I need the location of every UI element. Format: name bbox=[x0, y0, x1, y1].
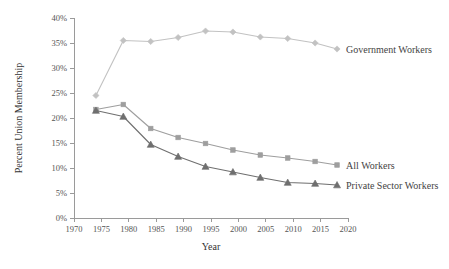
data-point-marker bbox=[148, 126, 153, 131]
data-point-marker bbox=[231, 148, 236, 153]
y-tick-label: 0% bbox=[56, 213, 67, 223]
data-point-marker bbox=[203, 141, 208, 146]
x-tick-label: 1980 bbox=[120, 224, 137, 234]
data-point-marker bbox=[175, 153, 182, 159]
data-point-marker bbox=[230, 29, 236, 35]
data-point-marker bbox=[257, 34, 263, 40]
data-point-marker bbox=[285, 156, 290, 161]
series-label-private-sector-workers: Private Sector Workers bbox=[346, 180, 438, 191]
x-tick-label: 1985 bbox=[148, 224, 165, 234]
data-point-marker bbox=[335, 163, 340, 168]
y-tick-label: 5% bbox=[56, 188, 67, 198]
line-chart: 0%5%10%15%20%25%30%35%40%197019751980198… bbox=[0, 0, 449, 269]
series-line bbox=[96, 111, 337, 186]
series-all-workers bbox=[94, 102, 340, 167]
x-tick-label: 2010 bbox=[285, 224, 302, 234]
data-point-marker bbox=[175, 34, 181, 40]
x-tick-label: 2020 bbox=[340, 224, 357, 234]
data-point-marker bbox=[121, 102, 126, 107]
y-tick-label: 40% bbox=[51, 13, 67, 23]
data-point-marker bbox=[312, 40, 318, 46]
union-membership-chart-page: 0%5%10%15%20%25%30%35%40%197019751980198… bbox=[0, 0, 449, 269]
x-tick-label: 2015 bbox=[312, 224, 329, 234]
y-tick-label: 15% bbox=[51, 138, 67, 148]
y-tick-label: 25% bbox=[51, 88, 67, 98]
y-axis-title: Percent Union Membership bbox=[13, 63, 24, 174]
y-tick-label: 20% bbox=[51, 113, 67, 123]
x-axis-title: Year bbox=[202, 241, 221, 252]
x-tick-label: 1995 bbox=[203, 224, 220, 234]
y-tick-label: 10% bbox=[51, 163, 67, 173]
y-tick-label: 35% bbox=[51, 38, 67, 48]
x-tick-label: 1970 bbox=[66, 224, 83, 234]
x-tick-label: 1975 bbox=[93, 224, 110, 234]
series-line bbox=[96, 105, 337, 166]
data-point-marker bbox=[148, 38, 154, 44]
plot-area: 0%5%10%15%20%25%30%35%40%197019751980198… bbox=[13, 13, 438, 252]
data-point-marker bbox=[202, 28, 208, 34]
data-point-marker bbox=[313, 159, 318, 164]
x-tick-label: 2000 bbox=[230, 224, 247, 234]
data-point-marker bbox=[285, 35, 291, 41]
data-point-marker bbox=[93, 92, 99, 98]
x-tick-label: 2005 bbox=[257, 224, 274, 234]
series-line bbox=[96, 31, 337, 96]
data-point-marker bbox=[258, 153, 263, 158]
series-label-all-workers: All Workers bbox=[346, 160, 395, 171]
y-tick-label: 30% bbox=[51, 63, 67, 73]
series-private-sector-workers bbox=[92, 107, 340, 188]
series-government-workers bbox=[93, 28, 340, 99]
series-label-government-workers: Government Workers bbox=[346, 44, 432, 55]
data-point-marker bbox=[334, 46, 340, 52]
x-tick-label: 1990 bbox=[175, 224, 192, 234]
data-point-marker bbox=[176, 135, 181, 140]
data-point-marker bbox=[120, 37, 126, 43]
